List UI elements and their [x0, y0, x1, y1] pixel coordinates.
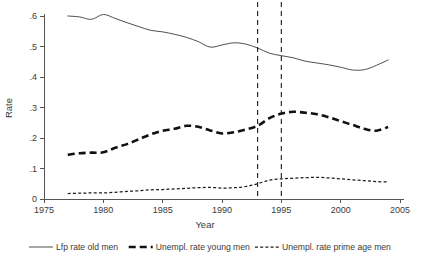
y-tick-label: .5 — [29, 42, 37, 52]
y-axis-ticks: 0.1.2.3.4.5.6 — [29, 11, 44, 204]
series-line-unempl-rate-young-men — [68, 112, 388, 155]
x-axis-title: Year — [195, 219, 214, 230]
legend-label: Unempl. rate prime age men — [282, 242, 391, 252]
y-tick-label: .4 — [29, 72, 37, 82]
data-series-group — [68, 14, 388, 193]
x-tick-label: 1980 — [93, 205, 113, 215]
x-tick-label: 2005 — [390, 205, 410, 215]
chart-legend: Lfp rate old menUnempl. rate young menUn… — [29, 242, 391, 252]
y-axis-title: Rate — [3, 98, 14, 118]
x-tick-label: 2000 — [331, 205, 351, 215]
y-tick-label: .6 — [29, 11, 37, 21]
x-tick-label: 1995 — [271, 205, 291, 215]
y-tick-label: .1 — [29, 164, 37, 174]
axes-group: 0.1.2.3.4.5.6 19751980198519901995200020… — [29, 11, 410, 215]
y-tick-label: 0 — [32, 194, 37, 204]
x-tick-label: 1990 — [212, 205, 232, 215]
reference-lines-group — [258, 2, 282, 199]
y-tick-label: .3 — [29, 103, 37, 113]
series-line-lfp-rate-old-men — [68, 14, 388, 70]
legend-label: Lfp rate old men — [56, 242, 118, 252]
y-tick-label: .2 — [29, 133, 37, 143]
legend-label: Unempl. rate young men — [156, 242, 250, 252]
x-axis-ticks: 1975198019851990199520002005 — [34, 199, 410, 215]
series-line-unempl-rate-prime-age-men — [68, 177, 388, 193]
x-tick-label: 1985 — [153, 205, 173, 215]
chart-figure: 0.1.2.3.4.5.6 19751980198519901995200020… — [0, 0, 425, 260]
chart-canvas: 0.1.2.3.4.5.6 19751980198519901995200020… — [0, 0, 425, 260]
x-tick-label: 1975 — [34, 205, 54, 215]
